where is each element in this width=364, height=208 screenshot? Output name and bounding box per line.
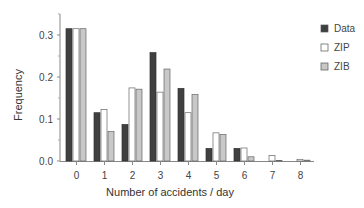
x-tick-label: 2: [130, 170, 136, 181]
x-tick-label: 8: [298, 170, 304, 181]
y-tick-label: 0.3: [39, 30, 53, 41]
bar-zib: [220, 135, 226, 161]
bar-zib: [248, 157, 254, 161]
bar-zib: [192, 95, 198, 161]
bar-zip: [101, 109, 107, 161]
bar-zip: [297, 159, 303, 161]
bar-zip: [73, 29, 79, 161]
bar-zib: [108, 132, 114, 161]
bar-zib: [164, 69, 170, 161]
legend-label-zib: ZIB: [334, 61, 350, 72]
bar-zib: [80, 29, 86, 161]
bar-data: [178, 88, 184, 161]
bar-zip: [269, 156, 275, 161]
legend-swatch-zib: [321, 63, 328, 70]
bar-zib: [136, 89, 142, 161]
x-tick-label: 7: [270, 170, 276, 181]
x-axis-title: Number of accidents / day: [106, 186, 234, 198]
x-tick-label: 5: [214, 170, 220, 181]
bar-zip: [185, 113, 191, 161]
x-tick-label: 6: [242, 170, 248, 181]
x-tick-label: 3: [158, 170, 164, 181]
bar-data: [150, 53, 156, 161]
x-tick-label: 1: [102, 170, 108, 181]
bar-chart: 0.00.10.20.3012345678Number of accidents…: [0, 0, 364, 208]
legend-swatch-data: [321, 25, 328, 32]
x-tick-label: 0: [74, 170, 80, 181]
legend-label-zip: ZIP: [334, 42, 350, 53]
y-axis-title: Frequency: [12, 69, 24, 121]
y-tick-label: 0.0: [39, 156, 53, 167]
bar-zip: [129, 88, 135, 161]
bar-zip: [241, 148, 247, 161]
legend-swatch-zip: [321, 44, 328, 51]
x-tick-label: 4: [186, 170, 192, 181]
bar-data: [122, 124, 128, 161]
bar-data: [94, 113, 100, 161]
bar-zib: [304, 160, 310, 161]
legend-label-data: Data: [334, 23, 356, 34]
y-tick-label: 0.2: [39, 72, 53, 83]
bar-data: [66, 29, 72, 161]
bar-zip: [213, 133, 219, 161]
y-tick-label: 0.1: [39, 114, 53, 125]
bar-data: [206, 148, 212, 161]
bar-zip: [157, 92, 163, 161]
bar-data: [234, 148, 240, 161]
